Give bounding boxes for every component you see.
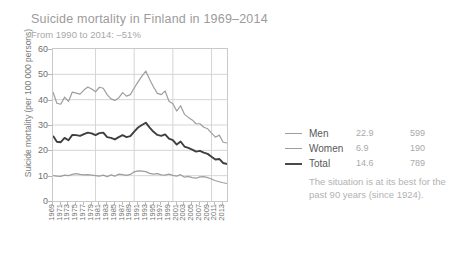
legend-label: Total xyxy=(309,156,330,171)
chart-svg xyxy=(53,49,227,201)
legend-label: Men xyxy=(309,126,328,141)
page-title: Suicide mortality in Finland in 1969–201… xyxy=(31,12,268,26)
legend-row[interactable]: Total14.6789 xyxy=(285,156,460,171)
series-line-women xyxy=(53,171,227,184)
chart-legend: Men22.9599Women6.9190Total14.6789 xyxy=(285,126,460,171)
legend-swatch-total xyxy=(285,163,302,165)
x-axis-tick-labels: 1969197119731975197719791981198319851987… xyxy=(52,204,228,250)
legend-row[interactable]: Women6.9190 xyxy=(285,141,460,156)
legend-rate: 6.9 xyxy=(356,141,369,156)
x-tick-label: 2013 xyxy=(218,204,226,221)
legend-row[interactable]: Men22.9599 xyxy=(285,126,460,141)
suicide-mortality-chart: Suicide mortality in Finland in 1969–201… xyxy=(0,0,463,257)
legend-rate: 22.9 xyxy=(356,126,374,141)
page-subtitle: From 1990 to 2014: –51% xyxy=(31,29,141,40)
annotation-note: The situation is at its best for the pas… xyxy=(309,176,459,201)
y-axis-tick-labels: 0102030405060 xyxy=(24,48,48,202)
plot-area xyxy=(52,48,228,202)
legend-count: 599 xyxy=(410,126,425,141)
legend-rate: 14.6 xyxy=(356,156,374,171)
series-line-men xyxy=(53,71,227,143)
legend-swatch-women xyxy=(285,148,302,149)
legend-count: 789 xyxy=(410,156,425,171)
legend-swatch-men xyxy=(285,133,302,134)
series-line-total xyxy=(53,123,227,164)
legend-count: 190 xyxy=(410,141,425,156)
legend-label: Women xyxy=(309,141,343,156)
